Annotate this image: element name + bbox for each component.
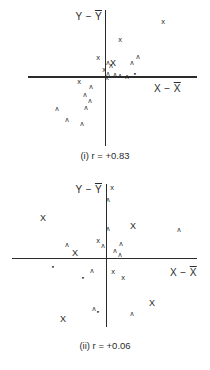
scatter-point: X [130, 222, 136, 231]
scatter-point: x [110, 184, 114, 192]
scatter-point: ʌ [101, 242, 105, 249]
scatter-point: ʌ [90, 267, 94, 274]
scatter-point: ▪ [82, 275, 84, 282]
scatter-point: x [111, 268, 115, 276]
scatter-point: ▪ [52, 264, 54, 271]
scatter-point: ʌ [92, 305, 96, 312]
scatter-point: ʌ [106, 196, 110, 203]
figure-correlation-scatter-diagrams: Y − Y X − X (i) r = +0.83 xxʌʌxʌXʌxʌʌʌʌ▪… [0, 0, 210, 370]
scatter-point: ʌ [177, 226, 181, 233]
scatter-point: x [96, 237, 100, 245]
scatter-point: X [40, 214, 46, 223]
scatter-point: ʌ [106, 225, 110, 232]
scatter-point: X [149, 299, 155, 308]
scatter-point: ʌ [119, 240, 123, 247]
scatter-point: ʌ [65, 241, 69, 248]
scatter-point: X [72, 249, 78, 258]
scatter-point: ▪ [97, 309, 99, 316]
scatter-point: X [60, 315, 66, 324]
scatter-point: ʌ [113, 247, 117, 254]
scatter-point: ʌ [130, 310, 134, 317]
scatter-point: ʌ [118, 251, 122, 258]
chart-ii-points-layer: XʌXxʌxʌʌʌXʌʌʌ▪▪ʌʌ▪XxxXʌ [0, 0, 210, 370]
scatter-point: x [121, 274, 125, 282]
